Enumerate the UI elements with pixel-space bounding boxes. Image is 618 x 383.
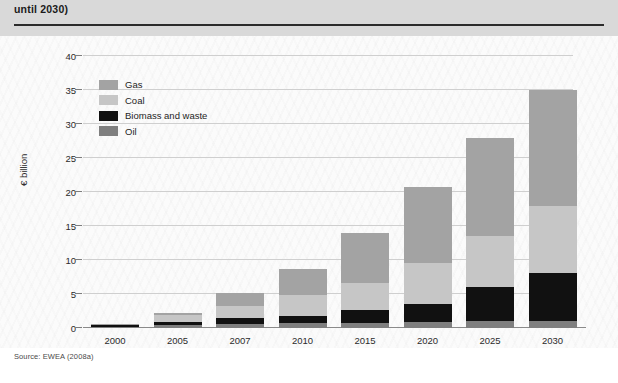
bar-segment[interactable]: [216, 293, 264, 306]
bar-segment[interactable]: [91, 327, 139, 328]
bar-group[interactable]: 2015: [341, 233, 389, 328]
y-tick-label: 30: [65, 119, 76, 130]
y-tick-mark: [75, 259, 82, 260]
legend-swatch: [99, 126, 118, 136]
bar-group[interactable]: 2025: [466, 138, 514, 328]
bar-segment[interactable]: [341, 233, 389, 283]
y-tick-mark: [75, 123, 82, 124]
bar-segment[interactable]: [466, 287, 514, 322]
legend-label: Oil: [125, 126, 137, 137]
bar-segment[interactable]: [216, 324, 264, 328]
y-tick-mark: [75, 55, 82, 56]
x-tick-label: 2030: [529, 335, 577, 346]
bar-segment[interactable]: [404, 304, 452, 322]
x-tick-label: 2005: [154, 335, 202, 346]
y-tick-mark: [75, 327, 82, 328]
legend-label: Gas: [125, 79, 142, 90]
bar-segment[interactable]: [154, 315, 202, 322]
y-tick-label: 15: [65, 221, 76, 232]
bar-group[interactable]: 2010: [279, 269, 327, 328]
figure-footer: Source: EWEA (2008a): [0, 348, 618, 383]
bar-segment[interactable]: [466, 236, 514, 287]
x-tick-label: 2000: [91, 335, 139, 346]
bar-group[interactable]: 2000: [91, 324, 139, 328]
bar-segment[interactable]: [279, 316, 327, 323]
legend-item[interactable]: Oil: [99, 124, 207, 140]
y-tick-label: 25: [65, 153, 76, 164]
legend-swatch: [99, 95, 118, 105]
bar-segment[interactable]: [404, 187, 452, 263]
bar-segment[interactable]: [529, 206, 577, 273]
header-divider-rule: [14, 24, 604, 26]
y-tick-mark: [75, 293, 82, 294]
legend-item[interactable]: Biomass and waste: [99, 108, 207, 124]
x-tick-label: 2025: [466, 335, 514, 346]
y-tick-mark: [75, 89, 82, 90]
chart-legend: GasCoalBiomass and wasteOil: [99, 77, 207, 139]
x-tick-label: 2007: [216, 335, 264, 346]
figure-caption-continuation: until 2030): [14, 3, 68, 15]
bar-segment[interactable]: [341, 323, 389, 328]
legend-item[interactable]: Gas: [99, 77, 207, 93]
bar-segment[interactable]: [529, 273, 577, 321]
y-tick-label: 40: [65, 51, 76, 62]
source-note: Source: EWEA (2008a): [14, 352, 94, 361]
x-tick-label: 2010: [279, 335, 327, 346]
figure-root: until 2030) 0510152025303540 20002005200…: [0, 0, 618, 383]
y-tick-label: 10: [65, 255, 76, 266]
x-tick-label: 2020: [404, 335, 452, 346]
bar-segment[interactable]: [529, 321, 577, 328]
y-tick-mark: [75, 191, 82, 192]
legend-label: Biomass and waste: [125, 110, 207, 121]
bar-segment[interactable]: [154, 325, 202, 328]
y-axis-title: € billion: [18, 154, 29, 186]
bar-segment[interactable]: [404, 263, 452, 304]
y-tick-label: 20: [65, 187, 76, 198]
bar-segment[interactable]: [279, 323, 327, 328]
bar-segment[interactable]: [404, 322, 452, 328]
bar-group[interactable]: 2005: [154, 313, 202, 328]
y-tick-label: 35: [65, 85, 76, 96]
bar-segment[interactable]: [216, 306, 264, 319]
y-tick-mark: [75, 157, 82, 158]
bar-group[interactable]: 2020: [404, 187, 452, 328]
bar-group[interactable]: 2030: [529, 90, 577, 328]
bar-segment[interactable]: [529, 90, 577, 206]
bar-group[interactable]: 2007: [216, 293, 264, 328]
y-tick-label: 5: [71, 289, 76, 300]
legend-label: Coal: [125, 95, 145, 106]
legend-item[interactable]: Coal: [99, 93, 207, 109]
bar-segment[interactable]: [341, 283, 389, 310]
bar-segment[interactable]: [466, 138, 514, 236]
bar-segment[interactable]: [279, 295, 327, 315]
figure-header-band: until 2030): [0, 0, 618, 36]
legend-swatch: [99, 80, 118, 90]
bar-segment[interactable]: [341, 310, 389, 322]
bar-segment[interactable]: [279, 269, 327, 296]
y-tick-label: 0: [71, 323, 76, 334]
bar-segment[interactable]: [466, 321, 514, 328]
x-tick-label: 2015: [341, 335, 389, 346]
chart-panel: 0510152025303540 20002005200720102015202…: [0, 36, 618, 348]
legend-swatch: [99, 111, 118, 121]
y-tick-mark: [75, 225, 82, 226]
